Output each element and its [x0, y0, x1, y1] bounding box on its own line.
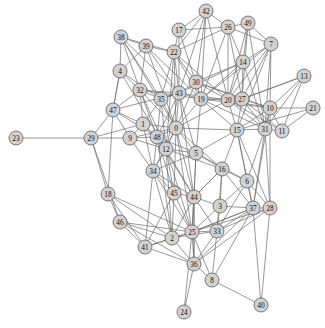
graph-node-circle[interactable]	[199, 4, 213, 18]
graph-node[interactable]: 33	[210, 224, 224, 238]
graph-node-circle[interactable]	[167, 186, 181, 200]
graph-node[interactable]: 9	[123, 131, 137, 145]
graph-node-circle[interactable]	[189, 146, 203, 160]
graph-node[interactable]: 21	[306, 101, 320, 115]
graph-node-circle[interactable]	[113, 215, 127, 229]
graph-node[interactable]: 16	[215, 162, 229, 176]
graph-node-circle[interactable]	[123, 131, 137, 145]
graph-node-circle[interactable]	[215, 162, 229, 176]
graph-node[interactable]: 42	[199, 4, 213, 18]
graph-node-circle[interactable]	[221, 20, 235, 34]
graph-node[interactable]: 39	[139, 39, 153, 53]
graph-node[interactable]: 34	[146, 164, 160, 178]
graph-node[interactable]: 31	[258, 122, 272, 136]
graph-node[interactable]: 43	[172, 86, 186, 100]
graph-node[interactable]: 29	[84, 131, 98, 145]
graph-node-circle[interactable]	[9, 131, 23, 145]
graph-node-circle[interactable]	[106, 103, 120, 117]
graph-node-circle[interactable]	[167, 45, 181, 59]
graph-node[interactable]: 15	[230, 123, 244, 137]
graph-node-circle[interactable]	[246, 201, 260, 215]
graph-node-circle[interactable]	[264, 37, 278, 51]
graph-node[interactable]: 18	[101, 187, 115, 201]
graph-node-circle[interactable]	[172, 23, 186, 37]
graph-node-circle[interactable]	[139, 39, 153, 53]
graph-node-circle[interactable]	[114, 30, 128, 44]
graph-node[interactable]: 40	[254, 298, 268, 312]
graph-node[interactable]: 26	[221, 20, 235, 34]
graph-node[interactable]: 1	[136, 117, 150, 131]
graph-node[interactable]: 48	[150, 130, 164, 144]
graph-node-circle[interactable]	[150, 130, 164, 144]
graph-node[interactable]: 37	[246, 201, 260, 215]
graph-node[interactable]: 10	[263, 101, 277, 115]
graph-node-circle[interactable]	[263, 201, 277, 215]
graph-node-circle[interactable]	[297, 69, 311, 83]
graph-node[interactable]: 38	[114, 30, 128, 44]
graph-node-circle[interactable]	[101, 187, 115, 201]
graph-node-circle[interactable]	[136, 117, 150, 131]
graph-node-circle[interactable]	[213, 199, 227, 213]
graph-node[interactable]: 36	[187, 257, 201, 271]
graph-node[interactable]: 7	[264, 37, 278, 51]
graph-node-circle[interactable]	[205, 273, 219, 287]
graph-node[interactable]: 14	[236, 55, 250, 69]
graph-node-circle[interactable]	[194, 92, 208, 106]
graph-node-circle[interactable]	[235, 92, 249, 106]
graph-node[interactable]: 35	[154, 92, 168, 106]
graph-node-circle[interactable]	[146, 164, 160, 178]
graph-node-circle[interactable]	[133, 83, 147, 97]
graph-node[interactable]: 24	[177, 305, 191, 319]
graph-node[interactable]: 41	[138, 240, 152, 254]
graph-node-circle[interactable]	[187, 257, 201, 271]
graph-node-circle[interactable]	[172, 86, 186, 100]
graph-node-circle[interactable]	[210, 224, 224, 238]
graph-node-circle[interactable]	[240, 174, 254, 188]
graph-node-circle[interactable]	[165, 231, 179, 245]
graph-node-circle[interactable]	[254, 298, 268, 312]
graph-node[interactable]: 3	[213, 199, 227, 213]
graph-node[interactable]: 11	[275, 124, 289, 138]
graph-node-circle[interactable]	[236, 55, 250, 69]
graph-node[interactable]: 47	[106, 103, 120, 117]
graph-node[interactable]: 2	[165, 231, 179, 245]
graph-node[interactable]: 27	[235, 92, 249, 106]
graph-node[interactable]: 25	[185, 225, 199, 239]
graph-node[interactable]: 44	[187, 190, 201, 204]
graph-node[interactable]: 30	[189, 75, 203, 89]
graph-node-circle[interactable]	[138, 240, 152, 254]
graph-node-circle[interactable]	[230, 123, 244, 137]
graph-node-circle[interactable]	[258, 122, 272, 136]
graph-node-circle[interactable]	[241, 16, 255, 30]
graph-node-circle[interactable]	[84, 131, 98, 145]
graph-node-circle[interactable]	[306, 101, 320, 115]
graph-node[interactable]: 46	[113, 215, 127, 229]
graph-node[interactable]: 49	[241, 16, 255, 30]
graph-node-circle[interactable]	[263, 101, 277, 115]
graph-node[interactable]: 17	[172, 23, 186, 37]
graph-node[interactable]: 8	[205, 273, 219, 287]
graph-node-circle[interactable]	[189, 75, 203, 89]
graph-node[interactable]: 0	[169, 121, 183, 135]
graph-node[interactable]: 22	[167, 45, 181, 59]
graph-node[interactable]: 28	[263, 201, 277, 215]
graph-node[interactable]: 12	[159, 142, 173, 156]
graph-node[interactable]: 32	[133, 83, 147, 97]
graph-node[interactable]: 45	[167, 186, 181, 200]
graph-node[interactable]: 4	[113, 64, 127, 78]
graph-node[interactable]: 23	[9, 131, 23, 145]
graph-node-circle[interactable]	[159, 142, 173, 156]
graph-node[interactable]: 6	[240, 174, 254, 188]
graph-node-circle[interactable]	[275, 124, 289, 138]
graph-node-circle[interactable]	[154, 92, 168, 106]
graph-node-circle[interactable]	[185, 225, 199, 239]
graph-node-circle[interactable]	[113, 64, 127, 78]
graph-node-circle[interactable]	[169, 121, 183, 135]
graph-node-circle[interactable]	[221, 93, 235, 107]
graph-node-circle[interactable]	[177, 305, 191, 319]
graph-node[interactable]: 5	[189, 146, 203, 160]
graph-node[interactable]: 19	[194, 92, 208, 106]
graph-node-circle[interactable]	[187, 190, 201, 204]
graph-node[interactable]: 20	[221, 93, 235, 107]
graph-node[interactable]: 13	[297, 69, 311, 83]
